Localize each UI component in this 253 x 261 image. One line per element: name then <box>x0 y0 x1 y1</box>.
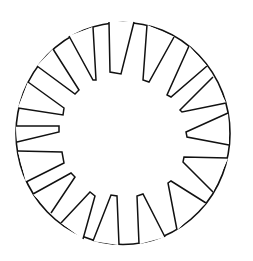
notched-circle-diagram <box>0 0 253 261</box>
